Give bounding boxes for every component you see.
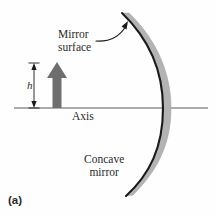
- mirror-surface-pointer-curve: [96, 26, 126, 41]
- figure-canvas: [0, 0, 216, 216]
- mirror-surface-label: Mirror surface: [58, 28, 91, 54]
- height-arrowhead-bottom: [31, 101, 36, 108]
- height-arrowhead-top: [31, 63, 36, 70]
- concave-mirror-figure: Mirror surface Axis Concave mirror h (a): [0, 0, 216, 216]
- axis-label: Axis: [72, 110, 94, 123]
- mirror-surface-pointer: [96, 21, 128, 41]
- panel-label: (a): [8, 194, 22, 207]
- concave-mirror-label: Concave mirror: [84, 153, 124, 179]
- object-height-label: h: [27, 79, 33, 91]
- mirror-reflecting-surface-edge: [122, 13, 163, 196]
- mirror-surface-pointer-arrowhead: [122, 21, 129, 30]
- object-arrow: [47, 62, 67, 108]
